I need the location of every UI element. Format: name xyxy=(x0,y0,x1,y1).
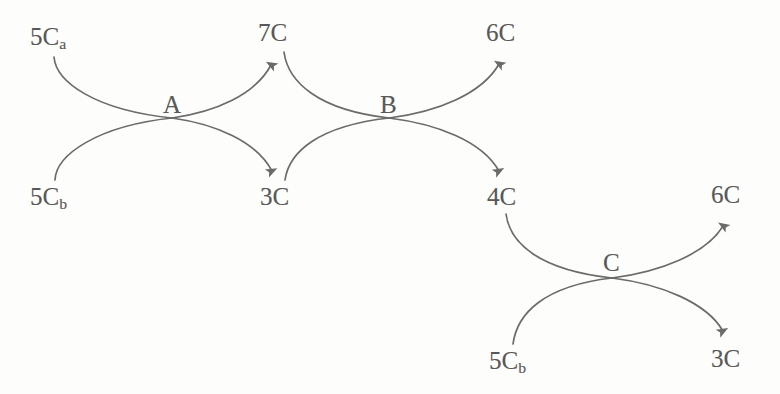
metabolite-label-5cb-left: 5Cb xyxy=(30,184,67,209)
metabolite-base: 5C xyxy=(30,23,59,50)
metabolite-label-4c: 4C xyxy=(487,184,516,209)
edge-3C-to-B xyxy=(285,118,389,180)
edge-7C-to-B xyxy=(284,52,389,118)
metabolite-subscript: b xyxy=(518,359,526,376)
metabolite-subscript: b xyxy=(59,195,67,212)
metabolite-label-7c: 7C xyxy=(258,20,287,45)
metabolite-base: 7C xyxy=(258,19,287,46)
metabolite-label-6c-right: 6C xyxy=(711,182,740,207)
metabolite-base: 5C xyxy=(489,347,518,374)
edge-4C-to-C xyxy=(506,214,612,278)
edge-5ca-to-A xyxy=(54,57,172,118)
metabolite-base: 5C xyxy=(30,183,59,210)
edge-B-to-4C xyxy=(389,118,499,171)
metabolite-label-3c-right: 3C xyxy=(711,346,740,371)
pathway-diagram: 5Ca 5Cb 7C 3C 6C 4C 5Cb 6C 3C A B C xyxy=(0,0,780,394)
reaction-node-label-c: C xyxy=(603,250,620,275)
metabolite-subscript: a xyxy=(59,35,66,52)
edge-5cb-to-A xyxy=(55,118,172,180)
edge-5cb-to-C xyxy=(513,278,612,344)
metabolite-base: 4C xyxy=(487,183,516,210)
edge-B-to-6C xyxy=(389,64,499,118)
metabolite-base: 3C xyxy=(260,183,289,210)
reaction-node-label-b: B xyxy=(380,92,397,117)
metabolite-label-5ca-left: 5Ca xyxy=(30,24,66,49)
pathway-curves-canvas xyxy=(0,0,780,394)
metabolite-base: 6C xyxy=(711,181,740,208)
reaction-node-label-a: A xyxy=(163,92,181,117)
edge-A-to-7C xyxy=(172,65,271,118)
metabolite-base: 3C xyxy=(711,345,740,372)
edge-A-to-3C xyxy=(172,118,272,171)
metabolite-base: 6C xyxy=(486,19,515,46)
metabolite-label-3c-middle: 3C xyxy=(260,184,289,209)
metabolite-label-6c-top: 6C xyxy=(486,20,515,45)
edge-C-to-6C xyxy=(612,226,723,278)
metabolite-label-5cb-right: 5Cb xyxy=(489,348,526,373)
edge-C-to-3C xyxy=(612,278,723,331)
